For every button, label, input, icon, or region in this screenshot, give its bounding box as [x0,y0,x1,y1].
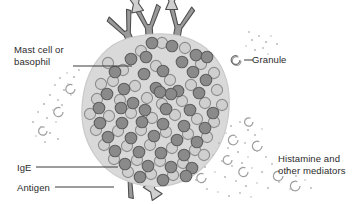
mast-cell-label: Mast cell or basophil [14,44,64,68]
released-granule-icon [245,118,253,126]
released-granule-icon [290,181,300,191]
released-granule-icon [54,107,63,116]
histamine-label: Histamine and other mediators [278,153,346,177]
released-granule-icon [223,156,232,165]
released-granule-icon [39,127,47,135]
antigen-label: Antigen [17,182,50,194]
ige-label: IgE [17,162,32,174]
released-granule-icon [197,173,206,182]
granule-label: Granule [252,54,287,66]
antigen-bowtie-shape [166,0,178,9]
released-granule-icon [66,84,75,93]
released-granule-icon [252,141,262,151]
released-granule-icon [239,167,248,176]
mast-cell-degranulation-figure: Mast cell or basophil Granule Histamine … [0,0,361,204]
